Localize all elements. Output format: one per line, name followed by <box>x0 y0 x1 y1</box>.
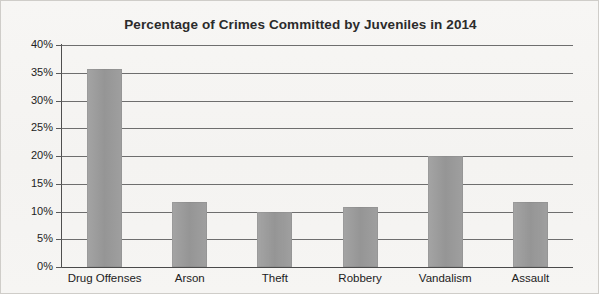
y-axis-tick <box>56 184 62 185</box>
y-axis-tick <box>56 267 62 268</box>
y-axis-tick <box>56 128 62 129</box>
gridline <box>62 184 573 185</box>
bar <box>172 202 207 267</box>
chart-title: Percentage of Crimes Committed by Juveni… <box>1 17 599 32</box>
y-axis-tick <box>56 101 62 102</box>
y-axis-tick <box>56 239 62 240</box>
x-axis-tick-label: Assault <box>475 272 585 284</box>
y-axis-tick-label: 40% <box>5 38 53 50</box>
gridline <box>62 267 573 268</box>
bar-chart-figure: Percentage of Crimes Committed by Juveni… <box>0 0 599 294</box>
y-axis-tick-label: 25% <box>5 121 53 133</box>
gridline <box>62 45 573 46</box>
y-axis-tick-label: 5% <box>5 232 53 244</box>
gridline <box>62 212 573 213</box>
gridline <box>62 73 573 74</box>
y-axis-tick-label: 0% <box>5 260 53 272</box>
bar <box>513 202 548 267</box>
y-axis-tick-label: 10% <box>5 205 53 217</box>
bar <box>428 156 463 267</box>
gridline <box>62 239 573 240</box>
plot-area <box>62 45 573 267</box>
y-axis-tick-label: 20% <box>5 149 53 161</box>
gridline <box>62 156 573 157</box>
gridline <box>62 101 573 102</box>
bar <box>87 69 122 267</box>
y-axis-tick <box>56 156 62 157</box>
bar <box>257 212 292 268</box>
bar <box>343 207 378 267</box>
x-axis-tick-labels: Drug OffensesArsonTheftRobberyVandalismA… <box>62 272 573 292</box>
y-axis-tick-label: 30% <box>5 94 53 106</box>
y-axis-tick <box>56 73 62 74</box>
y-axis-tick <box>56 212 62 213</box>
y-axis-tick-label: 15% <box>5 177 53 189</box>
y-axis-tick-labels: 40%35%30%25%20%15%10%5%0% <box>1 1 53 294</box>
y-axis-tick <box>56 45 62 46</box>
y-axis-tick-label: 35% <box>5 66 53 78</box>
gridline <box>62 128 573 129</box>
